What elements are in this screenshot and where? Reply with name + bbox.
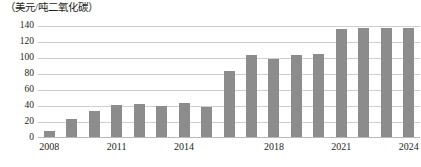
y-tick-label: 80 — [0, 69, 34, 79]
bar — [89, 111, 100, 137]
bar — [201, 107, 212, 137]
bar — [246, 55, 257, 137]
bar — [358, 28, 369, 137]
y-tick-label: 20 — [0, 117, 34, 127]
y-axis: 020406080100120140 — [0, 26, 34, 138]
bar — [313, 54, 324, 137]
y-tick-label: 60 — [0, 85, 34, 95]
bar — [66, 119, 77, 137]
bar — [403, 28, 414, 137]
x-tick-label: 2014 — [174, 140, 194, 153]
bar — [134, 104, 145, 137]
bar-chart: （美元/吨二氧化碳） 020406080100120140 2008201120… — [0, 0, 421, 167]
bar-series — [38, 26, 420, 138]
bar — [111, 105, 122, 137]
y-tick-label: 100 — [0, 53, 34, 63]
bar — [156, 106, 167, 137]
x-axis: 200820112014201820212024（年份） — [0, 140, 421, 156]
y-axis-unit-label: （美元/吨二氧化碳） — [5, 1, 98, 14]
bar — [291, 55, 302, 137]
bar — [336, 29, 347, 137]
x-axis-baseline — [38, 137, 420, 138]
x-tick-label: 2018 — [264, 140, 284, 153]
x-tick-label: 2024 — [399, 140, 419, 153]
bar — [224, 71, 235, 137]
bar — [179, 103, 190, 137]
y-tick-label: 140 — [0, 21, 34, 31]
x-tick-label: 2011 — [107, 140, 127, 153]
x-tick-label: 2008 — [39, 140, 59, 153]
plot-area — [38, 26, 420, 138]
bar — [268, 59, 279, 137]
x-tick-label: 2021 — [331, 140, 351, 153]
y-tick-label: 40 — [0, 101, 34, 111]
bar — [381, 28, 392, 137]
y-tick-label: 120 — [0, 37, 34, 47]
